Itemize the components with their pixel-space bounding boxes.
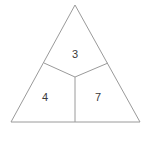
region-label-top: 3 [72, 48, 78, 60]
figure-container: 3 4 7 [0, 0, 146, 147]
region-top-fill [44, 5, 108, 77]
region-label-bottom-left: 4 [42, 91, 48, 103]
region-label-bottom-right: 7 [95, 91, 101, 103]
triangle-diagram: 3 4 7 [0, 0, 146, 147]
